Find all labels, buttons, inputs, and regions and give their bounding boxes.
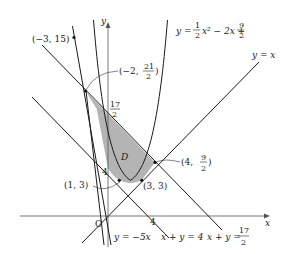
svg-text:2: 2 <box>239 31 244 40</box>
region-d <box>86 91 156 183</box>
label-point-4-9-2: (4, 9 2 ) <box>181 153 212 173</box>
svg-text:(4,: (4, <box>181 157 193 167</box>
svg-text:9: 9 <box>239 21 244 30</box>
label-point-1-3: (1, 3) <box>64 180 88 190</box>
svg-text:2: 2 <box>201 164 206 173</box>
svg-text:x + y =: x + y = <box>207 232 241 242</box>
y-tick-17-2: 17 2 <box>110 100 120 119</box>
label-point-3-3: (3, 3) <box>143 181 167 191</box>
label-point-m2-21-2: (−2, 21 2 ) <box>119 62 159 81</box>
y-axis-arrow-icon <box>106 22 111 28</box>
origin-label: O <box>95 219 102 229</box>
leader-4-9-2 <box>156 160 180 162</box>
svg-text:(−2,: (−2, <box>119 66 139 76</box>
y-tick-4: 4 <box>102 167 108 177</box>
x-tick-4: 4 <box>150 217 156 227</box>
point-m3-15 <box>72 36 75 39</box>
graph-figure: y x O 4 4 17 2 D (−3, 15) (−2, 21 2 ) (1… <box>0 0 285 254</box>
svg-text:2: 2 <box>241 238 246 247</box>
svg-text:2: 2 <box>195 31 200 40</box>
svg-text:21: 21 <box>144 62 154 71</box>
svg-text:17: 17 <box>110 100 120 109</box>
y-axis-label: y <box>100 16 107 26</box>
svg-text:1: 1 <box>195 21 200 30</box>
svg-text:): ) <box>155 66 159 76</box>
region-d-label: D <box>120 152 128 162</box>
label-parabola: y = 1 2 x² − 2x + 9 2 <box>175 21 245 40</box>
point-1-3 <box>118 179 121 182</box>
svg-text:17: 17 <box>239 226 249 235</box>
svg-text:9: 9 <box>201 153 206 162</box>
point-m2-21-2 <box>84 89 87 92</box>
svg-text:): ) <box>208 157 212 167</box>
label-point-m3-15: (−3, 15) <box>32 34 69 44</box>
label-y-eq-minus-5x: y = −5x <box>113 232 151 242</box>
svg-text:y =: y = <box>175 26 192 36</box>
svg-text:2: 2 <box>146 72 151 81</box>
label-y-eq-x: y = x <box>251 50 275 60</box>
svg-text:2: 2 <box>112 110 117 119</box>
point-4-9-2 <box>153 161 156 164</box>
x-axis-label: x <box>265 218 270 228</box>
label-x-plus-y-4: x + y = 4 <box>161 232 204 242</box>
label-x-plus-y-17-2: x + y = 17 2 <box>207 226 249 247</box>
leader-m2-21-2 <box>86 71 118 90</box>
